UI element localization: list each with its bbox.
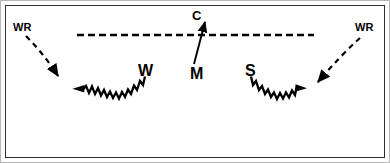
label-s-route: S [245, 63, 256, 79]
label-motion: M [190, 66, 203, 82]
label-coverage: C [192, 9, 201, 22]
label-wr-right: WR [355, 22, 373, 33]
label-w-route: W [138, 63, 153, 79]
label-wr-left: WR [13, 22, 31, 33]
play-diagram: WR WR C M W S [0, 0, 390, 163]
